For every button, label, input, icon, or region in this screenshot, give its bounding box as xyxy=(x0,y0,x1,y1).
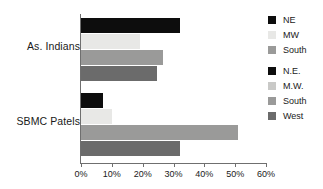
category-label-as-indians: As. Indians xyxy=(0,40,80,52)
x-tick-20 xyxy=(143,163,144,167)
legend-item-ne[interactable]: NE xyxy=(268,12,323,27)
bar-as-indians-ne xyxy=(81,18,180,33)
legend-swatch-icon xyxy=(268,112,276,120)
x-tick-30 xyxy=(174,163,175,167)
legend-item-label: NE xyxy=(283,15,296,25)
bar-as-indians-west xyxy=(81,66,157,81)
legend-item-label: M.W. xyxy=(283,81,304,91)
bar-as-indians-mw xyxy=(81,34,140,49)
legend-item-south[interactable]: South xyxy=(268,42,323,57)
legend-item-label: MW xyxy=(283,30,299,40)
x-tick-label-60: 60% xyxy=(246,169,286,179)
legend-swatch-icon xyxy=(268,82,276,90)
legend-swatch-icon xyxy=(268,31,276,39)
legend-group-0: NEMWSouth xyxy=(268,12,323,57)
legend-item-label: West xyxy=(283,111,303,121)
legend-item-label: South xyxy=(283,96,307,106)
legend-item-mw[interactable]: M.W. xyxy=(268,78,323,93)
legend-item-south[interactable]: South xyxy=(268,93,323,108)
x-tick-10 xyxy=(112,163,113,167)
plot-area xyxy=(81,14,266,163)
legend-item-mw[interactable]: MW xyxy=(268,27,323,42)
legend-item-west[interactable]: West xyxy=(268,108,323,123)
legend-swatch-icon xyxy=(268,97,276,105)
x-tick-50 xyxy=(235,163,236,167)
legend-swatch-icon xyxy=(268,67,276,75)
bar-sbmc-patels-ne xyxy=(81,93,103,108)
category-label-sbmc-patels: SBMC Patels xyxy=(0,115,80,127)
bar-sbmc-patels-west xyxy=(81,141,180,156)
x-tick-40 xyxy=(204,163,205,167)
legend-item-label: South xyxy=(283,45,307,55)
bar-sbmc-patels-mw xyxy=(81,109,112,124)
x-tick-60 xyxy=(266,163,267,167)
legend-item-label: N.E. xyxy=(283,66,301,76)
legend-swatch-icon xyxy=(268,16,276,24)
legend-swatch-icon xyxy=(268,46,276,54)
bar-sbmc-patels-south xyxy=(81,125,238,140)
bar-chart: As. Indians SBMC Patels 0%10%20%30%40%50… xyxy=(0,0,323,189)
chart-legend: NEMWSouthN.E.M.W.SouthWest xyxy=(268,12,323,129)
bar-as-indians-south xyxy=(81,50,163,65)
x-tick-0 xyxy=(81,163,82,167)
legend-item-ne[interactable]: N.E. xyxy=(268,63,323,78)
legend-group-1: N.E.M.W.SouthWest xyxy=(268,63,323,123)
